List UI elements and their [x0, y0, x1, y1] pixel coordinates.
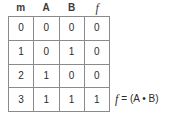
- cell-b: 1: [60, 41, 85, 64]
- cell-f: 0: [85, 17, 109, 40]
- cell-f: 1: [85, 88, 109, 111]
- column-header-function: f: [85, 0, 111, 16]
- cell-minterm: 3: [9, 88, 34, 111]
- cell-b: 0: [60, 17, 85, 40]
- cell-a: 1: [34, 88, 59, 111]
- column-header-a: A: [34, 0, 60, 16]
- table-row: 0 0 0 0: [9, 17, 109, 41]
- cell-b: 0: [60, 65, 85, 88]
- cell-a: 1: [34, 65, 59, 88]
- column-header-b: B: [59, 0, 85, 16]
- cell-f: 0: [85, 41, 109, 64]
- cell-minterm: 1: [9, 41, 34, 64]
- table-row: 2 1 0 0: [9, 65, 109, 89]
- cell-a: 0: [34, 41, 59, 64]
- truth-table-header-row: m A B f: [8, 0, 110, 16]
- table-row: 3 1 1 1: [9, 88, 109, 111]
- cell-f: 0: [85, 65, 109, 88]
- equation-function-symbol: f: [115, 93, 118, 105]
- cell-minterm: 0: [9, 17, 34, 40]
- equation-expression: = (A • B): [121, 94, 158, 104]
- column-header-minterm: m: [8, 0, 34, 16]
- truth-table-grid: 0 0 0 0 1 0 1 0 2 1 0 0 3 1 1 1: [8, 16, 110, 112]
- cell-minterm: 2: [9, 65, 34, 88]
- cell-b: 1: [60, 88, 85, 111]
- cell-a: 0: [34, 17, 59, 40]
- table-row: 1 0 1 0: [9, 41, 109, 65]
- boolean-equation: f = (A • B): [115, 90, 158, 108]
